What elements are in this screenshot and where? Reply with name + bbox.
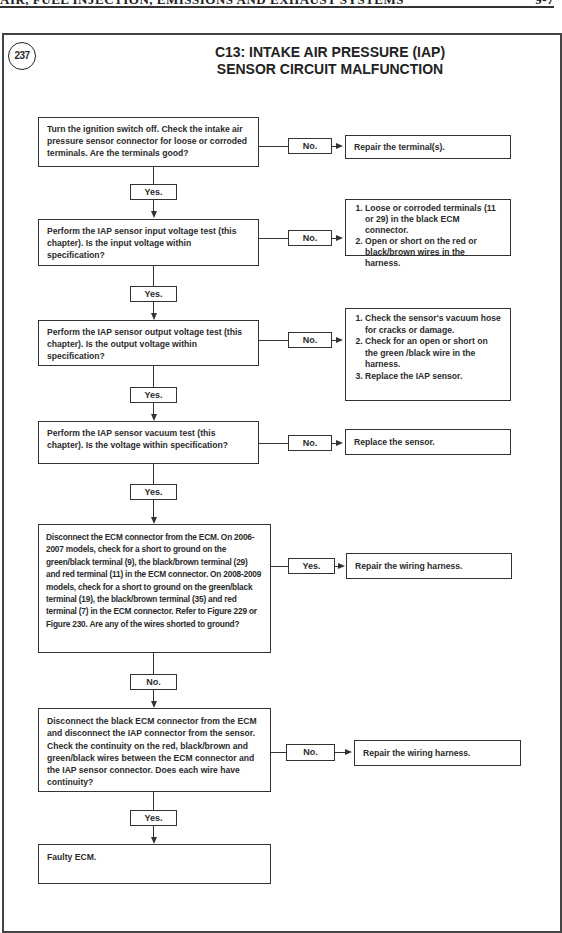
- arrow-down-icon: [151, 701, 157, 708]
- header-rule: [0, 6, 554, 8]
- connector-line: [153, 792, 154, 812]
- step-1-yes-label: Yes.: [130, 184, 177, 200]
- step-3-no-label: No.: [288, 332, 332, 348]
- step-6-box: Disconnect the black ECM connector from …: [38, 708, 271, 792]
- arrow-right-icon: [336, 235, 343, 241]
- arrow-right-icon: [345, 749, 352, 755]
- step-7-box: Faulty ECM.: [38, 844, 271, 884]
- figure-title-line1: C13: INTAKE AIR PRESSURE (IAP): [130, 44, 530, 60]
- figure-number-badge: 237: [8, 42, 36, 70]
- step-4-no-label: No.: [288, 435, 332, 451]
- arrow-right-icon: [338, 563, 345, 569]
- step-6-yes-label: Yes.: [130, 810, 177, 826]
- step-4-result-box: Replace the sensor.: [345, 429, 511, 455]
- step-3-yes-label: Yes.: [130, 387, 177, 403]
- step-2-result-item: Loose or corroded terminals (11 or 29) i…: [365, 203, 502, 236]
- step-2-box: Perform the IAP sensor input voltage tes…: [38, 219, 259, 266]
- step-4-text: Perform the IAP sensor vacuum test (this…: [47, 428, 228, 450]
- step-3-box: Perform the IAP sensor output voltage te…: [38, 320, 259, 366]
- step-2-yes-label: Yes.: [130, 286, 177, 302]
- step-6-text: Disconnect the black ECM connector from …: [47, 716, 257, 787]
- step-7-text: Faulty ECM.: [47, 852, 96, 862]
- connector-line: [153, 464, 154, 486]
- step-6-no-label: No.: [286, 744, 335, 761]
- step-5-yes-label: Yes.: [288, 558, 335, 574]
- figure-frame: [2, 33, 562, 933]
- step-6-result-box: Repair the wiring harness.: [354, 740, 521, 766]
- arrow-right-icon: [336, 143, 343, 149]
- step-1-box: Turn the ignition switch off. Check the …: [38, 117, 259, 167]
- step-2-result-box: Loose or corroded terminals (11 or 29) i…: [345, 199, 511, 256]
- arrow-down-icon: [151, 313, 157, 320]
- step-5-text: Disconnect the ECM connector from the EC…: [46, 532, 261, 629]
- connector-line: [259, 443, 288, 444]
- step-3-result-item: Check for an open or short on the green …: [365, 336, 502, 371]
- connector-line: [153, 366, 154, 388]
- step-5-result-text: Repair the wiring harness.: [355, 561, 462, 571]
- step-4-result-text: Replace the sensor.: [354, 437, 435, 447]
- arrow-down-icon: [151, 211, 157, 218]
- step-2-result-item: Open or short on the red or black/brown …: [365, 236, 502, 269]
- step-4-box: Perform the IAP sensor vacuum test (this…: [38, 421, 259, 464]
- connector-line: [259, 340, 288, 341]
- connector-line: [153, 167, 154, 185]
- connector-line: [153, 653, 154, 675]
- step-3-text: Perform the IAP sensor output voltage te…: [47, 327, 242, 361]
- step-6-result-text: Repair the wiring harness.: [363, 748, 470, 758]
- step-2-no-label: No.: [288, 230, 332, 246]
- arrow-down-icon: [151, 414, 157, 421]
- step-5-box: Disconnect the ECM connector from the EC…: [38, 524, 271, 653]
- step-1-text: Turn the ignition switch off. Check the …: [47, 124, 247, 158]
- connector-line: [271, 566, 288, 567]
- arrow-down-icon: [151, 837, 157, 844]
- step-2-text: Perform the IAP sensor input voltage tes…: [47, 226, 236, 260]
- figure-title-line2: SENSOR CIRCUIT MALFUNCTION: [130, 61, 530, 77]
- step-1-result-text: Repair the terminal(s).: [354, 142, 445, 152]
- arrow-right-icon: [336, 440, 343, 446]
- step-3-result-item: Check the sensor's vacuum hose for crack…: [365, 313, 502, 336]
- step-3-result-item: Replace the IAP sensor.: [365, 371, 502, 383]
- step-5-result-box: Repair the wiring harness.: [346, 553, 512, 579]
- step-3-result-box: Check the sensor's vacuum hose for crack…: [345, 308, 511, 401]
- step-5-no-label: No.: [130, 674, 177, 690]
- connector-line: [153, 266, 154, 288]
- arrow-down-icon: [151, 517, 157, 524]
- step-1-result-box: Repair the terminal(s).: [345, 135, 511, 159]
- arrow-right-icon: [336, 337, 343, 343]
- step-1-no-label: No.: [288, 138, 332, 154]
- connector-line: [259, 238, 288, 239]
- step-4-yes-label: Yes.: [130, 484, 177, 500]
